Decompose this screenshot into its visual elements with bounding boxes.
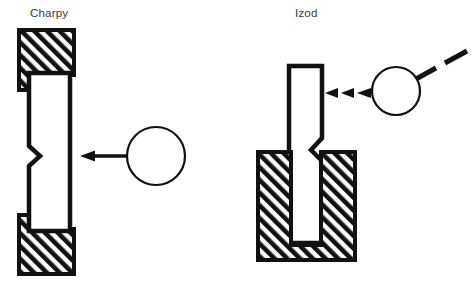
- diagram-canvas: Charpy Izod: [0, 0, 474, 297]
- charpy-title: Charpy: [30, 7, 68, 19]
- charpy-specimen-bar: [29, 73, 70, 231]
- impact-test-diagram: Charpy Izod: [0, 0, 474, 297]
- charpy-striker-circle: [127, 127, 185, 185]
- charpy-specimen: [29, 73, 70, 231]
- izod-title: Izod: [295, 7, 318, 19]
- izod-striker-circle: [372, 67, 420, 115]
- izod-specimen: [289, 66, 322, 243]
- izod-specimen-bar: [289, 66, 322, 243]
